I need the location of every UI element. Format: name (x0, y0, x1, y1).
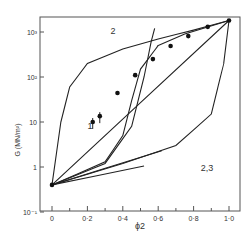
data-point (205, 25, 210, 30)
x-tick-label: 0·6 (153, 215, 163, 222)
data-point (133, 73, 138, 78)
x-tick-label: 0 (50, 215, 54, 222)
x-axis-label: ϕ2 (135, 221, 145, 231)
data-point (168, 44, 173, 49)
curve-label: 1 (87, 121, 92, 131)
curve (52, 166, 144, 185)
curves (52, 21, 229, 185)
plot-frame (40, 17, 240, 211)
chart: 10⁻¹11010²10³ 00·20·40·60·81·0 122,3 ϕ2 … (0, 0, 251, 240)
x-axis: 00·20·40·60·81·0 (50, 206, 234, 222)
curve (52, 151, 162, 185)
curve (52, 28, 155, 184)
data-point (50, 183, 55, 188)
y-tick-label: 10⁻¹ (23, 209, 38, 216)
x-tick-label: 1·0 (224, 215, 234, 222)
data-point (227, 18, 232, 23)
curve-label: 2,3 (201, 163, 214, 173)
curve-label: 2 (110, 26, 115, 36)
y-tick-label: 10 (29, 119, 37, 126)
data-point (115, 91, 120, 96)
y-axis: 10⁻¹11010²10³ (23, 29, 44, 216)
y-tick-label: 10² (27, 74, 38, 81)
data-point (186, 34, 191, 39)
data-point (151, 57, 156, 62)
data-point (97, 114, 102, 119)
x-tick-label: 0·8 (189, 215, 199, 222)
y-tick-label: 10³ (27, 29, 38, 36)
y-tick-label: 1 (33, 164, 37, 171)
curve (52, 21, 229, 185)
x-tick-label: 0·4 (118, 215, 128, 222)
x-tick-label: 0·2 (82, 215, 92, 222)
y-axis-label: G (MN/m²) (14, 123, 22, 156)
